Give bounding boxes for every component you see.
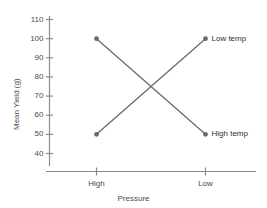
series-label: Low temp [212, 34, 247, 43]
y-tick-label: 80 [35, 73, 44, 81]
chart-canvas [0, 0, 267, 208]
x-axis-title: Pressure [0, 194, 267, 203]
chart-figure: 405060708090100110 HighLow High tempLow … [0, 0, 267, 208]
y-axis-title: Mean Yield (g) [12, 78, 21, 130]
y-tick-label: 90 [35, 54, 44, 62]
data-point-marker [94, 36, 99, 41]
series-label: High temp [212, 129, 248, 138]
data-point-marker [203, 36, 208, 41]
data-point-marker [203, 132, 208, 137]
y-tick-label: 40 [35, 150, 44, 158]
x-tick-label: Low [176, 180, 236, 188]
y-tick-label: 70 [35, 92, 44, 100]
y-tick-label: 100 [30, 35, 43, 43]
data-point-marker [94, 132, 99, 137]
y-tick-label: 50 [35, 130, 44, 138]
x-tick-label: High [67, 180, 127, 188]
y-tick-label: 60 [35, 111, 44, 119]
series-lines [97, 39, 206, 135]
y-tick-label: 110 [31, 16, 44, 24]
